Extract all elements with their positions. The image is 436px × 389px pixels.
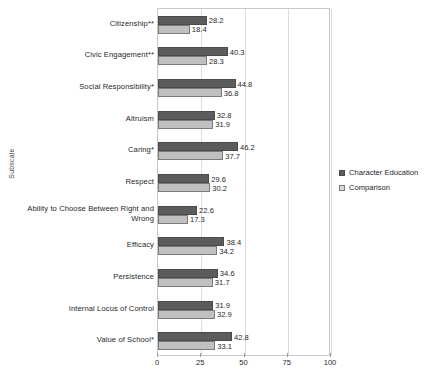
bar bbox=[158, 310, 215, 319]
x-axis-tick-label: 50 bbox=[229, 358, 259, 367]
category-label: Civic Engagement** bbox=[12, 50, 154, 60]
bar bbox=[158, 246, 217, 255]
bar-value-label: 34.6 bbox=[220, 269, 235, 278]
bar bbox=[158, 47, 228, 56]
bar bbox=[158, 341, 215, 350]
category-label: Altruism bbox=[12, 114, 154, 124]
legend-label: Character Education bbox=[349, 168, 418, 177]
bar-value-label: 29.6 bbox=[211, 175, 226, 184]
x-axis-tick-label: 75 bbox=[272, 358, 302, 367]
gridline bbox=[245, 9, 246, 355]
bar-value-label: 36.8 bbox=[224, 89, 239, 98]
bar bbox=[158, 88, 222, 97]
x-axis-tick-mark bbox=[287, 353, 288, 357]
legend-label: Comparison bbox=[349, 183, 390, 192]
category-label: Social Responsibility* bbox=[12, 82, 154, 92]
bar-value-label: 46.2 bbox=[240, 143, 255, 152]
bar-value-label: 31.7 bbox=[215, 278, 230, 287]
bar bbox=[158, 79, 236, 88]
bar-value-label: 18.4 bbox=[192, 25, 207, 34]
category-label: Efficacy bbox=[12, 240, 154, 250]
bar-value-label: 38.4 bbox=[226, 238, 241, 247]
x-axis-tick-label: 25 bbox=[185, 358, 215, 367]
bar bbox=[158, 174, 209, 183]
gridline bbox=[288, 9, 289, 355]
category-label-column: Citizenship**Civic Engagement**Social Re… bbox=[12, 8, 154, 356]
bar-value-label: 28.2 bbox=[209, 16, 224, 25]
bar-value-label: 31.9 bbox=[215, 120, 230, 129]
x-axis-tick-label: 100 bbox=[315, 358, 345, 367]
bar bbox=[158, 151, 223, 160]
category-label: Internal Locus of Control bbox=[12, 304, 154, 314]
legend-swatch-icon bbox=[339, 185, 345, 191]
bar bbox=[158, 56, 207, 65]
bar-value-label: 17.3 bbox=[190, 215, 205, 224]
x-axis-tick-label: 0 bbox=[142, 358, 172, 367]
legend-item: Comparison bbox=[339, 183, 434, 192]
category-label: Persistence bbox=[12, 272, 154, 282]
bar-value-label: 37.7 bbox=[225, 152, 240, 161]
bar bbox=[158, 16, 207, 25]
bar-value-label: 32.8 bbox=[217, 111, 232, 120]
category-label: Value of School* bbox=[12, 335, 154, 345]
x-axis-tick-mark bbox=[244, 353, 245, 357]
legend: Character EducationComparison bbox=[339, 168, 434, 198]
bar-chart: Subscale Citizenship**Civic Engagement**… bbox=[0, 0, 436, 389]
plot-area: 28.218.440.328.344.836.832.831.946.237.7… bbox=[157, 8, 330, 356]
bar-value-label: 30.2 bbox=[212, 184, 227, 193]
category-label: Ability to Choose Between Right and Wron… bbox=[12, 204, 154, 223]
bar bbox=[158, 278, 213, 287]
category-label: Citizenship** bbox=[12, 19, 154, 29]
bar-value-label: 42.8 bbox=[234, 333, 249, 342]
bar bbox=[158, 332, 232, 341]
bar-value-label: 34.2 bbox=[219, 247, 234, 256]
bar-value-label: 28.3 bbox=[209, 57, 224, 66]
bar bbox=[158, 142, 238, 151]
bar-value-label: 44.8 bbox=[238, 80, 253, 89]
x-axis-tick-labels: 0255075100 bbox=[0, 358, 436, 372]
x-axis-tick-mark bbox=[200, 353, 201, 357]
legend-item: Character Education bbox=[339, 168, 434, 177]
x-axis-tick-mark bbox=[157, 353, 158, 357]
gridline bbox=[331, 9, 332, 355]
bar-value-label: 33.1 bbox=[217, 342, 232, 351]
bar bbox=[158, 206, 197, 215]
bar bbox=[158, 269, 218, 278]
bar bbox=[158, 25, 190, 34]
bar bbox=[158, 237, 224, 246]
bar-value-label: 31.9 bbox=[215, 301, 230, 310]
bar bbox=[158, 215, 188, 224]
bar bbox=[158, 111, 215, 120]
bar bbox=[158, 120, 213, 129]
bar-value-label: 40.3 bbox=[230, 48, 245, 57]
bar bbox=[158, 183, 210, 192]
category-label: Respect bbox=[12, 177, 154, 187]
legend-swatch-icon bbox=[339, 170, 345, 176]
bar-value-label: 22.6 bbox=[199, 206, 214, 215]
bar-value-label: 32.9 bbox=[217, 310, 232, 319]
bar bbox=[158, 301, 213, 310]
x-axis-tick-mark bbox=[330, 353, 331, 357]
category-label: Caring* bbox=[12, 145, 154, 155]
